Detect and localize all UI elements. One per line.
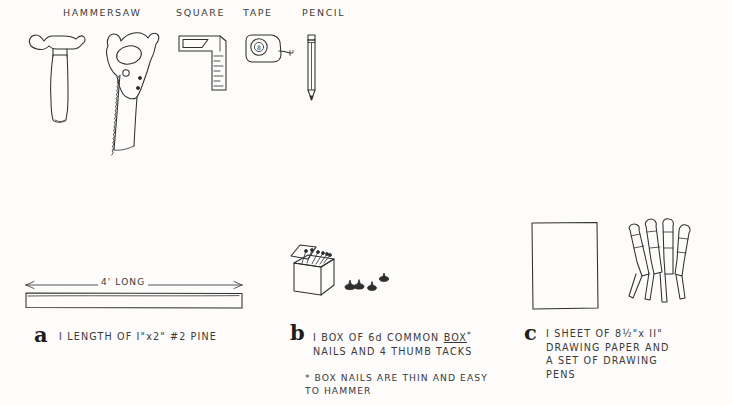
pencil-drawing (300, 32, 326, 108)
tool-label-hammer: HAMMER (63, 7, 115, 18)
tool-label-pencil: PENCIL (302, 7, 345, 18)
footnote-line1: * BOX NAILS ARE THIN AND EASY (305, 372, 488, 383)
board-dimension-label: 4' LONG (98, 277, 148, 287)
tool-label-tape: TAPE (243, 7, 273, 18)
caption-b-line2: NAILS AND 4 THUMB TACKS (313, 346, 472, 357)
item-letter-b: b (290, 322, 305, 343)
saw-drawing (98, 28, 170, 154)
caption-a: I LENGTH OF I"x2" #2 PINE (59, 330, 217, 344)
pine-board-drawing (24, 291, 244, 311)
caption-c-line2: DRAWING PAPER AND (546, 342, 670, 353)
caption-b-line1-pre: I BOX OF 6d COMMON (313, 332, 444, 343)
item-letter-c: c (524, 322, 537, 343)
caption-b-underlined: BOX (444, 332, 467, 343)
tape-reel-mark: 8 (257, 44, 261, 51)
caption-b: I BOX OF 6d COMMON BOX*NAILS AND 4 THUMB… (313, 328, 472, 358)
footnote-box-nails: * BOX NAILS ARE THIN AND EASYTO HAMMER (305, 371, 488, 397)
drawing-pens-drawing (616, 212, 708, 316)
caption-c-line4: PENS (546, 369, 576, 380)
footnote-line2: TO HAMMER (305, 385, 371, 396)
caption-c-line1: I SHEET OF 8½"x II" (546, 328, 663, 339)
tool-label-square: SQUARE (176, 7, 225, 18)
tape-measure-drawing: 8 (241, 32, 297, 72)
caption-c: I SHEET OF 8½"x II"DRAWING PAPER ANDA SE… (546, 327, 670, 381)
item-letter-a: a (34, 324, 48, 345)
square-drawing (176, 30, 238, 96)
hammer-drawing (22, 28, 92, 128)
caption-b-asterisk: * (467, 330, 471, 339)
tool-label-saw: SAW (115, 7, 141, 18)
caption-c-line3: A SET OF DRAWING (546, 355, 658, 366)
illustration-page: HAMMER SAW SQUARE TAPE PENCIL (0, 0, 732, 406)
drawing-paper-sheet (530, 220, 602, 312)
thumb-tacks-drawing (342, 272, 398, 296)
